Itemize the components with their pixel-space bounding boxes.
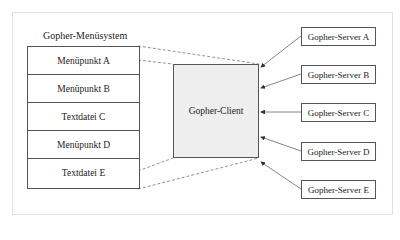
server-b: Gopher-Server B [301, 65, 376, 84]
server-label: Gopher-Server B [308, 70, 370, 80]
server-label: Gopher-Server C [308, 108, 370, 118]
text-file-c: Textdatei C [28, 103, 139, 131]
server-label: Gopher-Server A [308, 32, 370, 42]
server-a: Gopher-Server A [301, 27, 376, 46]
server-d: Gopher-Server D [301, 142, 376, 161]
server-label: Gopher-Server D [307, 147, 369, 157]
menu-item-b: Menüpunkt B [28, 75, 139, 103]
client-label: Gopher-Client [189, 106, 244, 116]
gopher-menu: Menüpunkt A Menüpunkt B Textdatei C Menü… [27, 46, 140, 189]
menu-item-d: Menüpunkt D [28, 131, 139, 159]
menu-item-a: Menüpunkt A [28, 47, 139, 75]
text-file-e: Textdatei E [28, 159, 139, 188]
server-e: Gopher-Server E [301, 180, 376, 199]
gopher-client-box: Gopher-Client [173, 64, 259, 158]
menu-system-title: Gopher-Menüsystem [43, 30, 127, 41]
server-c: Gopher-Server C [301, 103, 376, 122]
server-label: Gopher-Server E [308, 185, 369, 195]
